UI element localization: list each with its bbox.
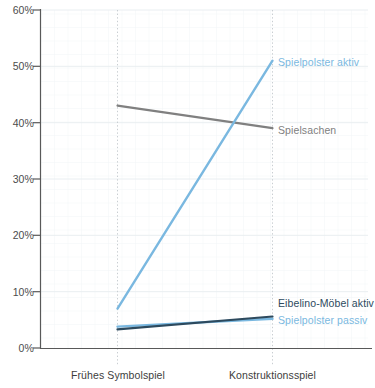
chart-container: 60% 50% 40% 30% 20% 10% 0% Frühes Symbol… <box>0 0 375 388</box>
y-tick-label-30: 30% <box>0 173 34 185</box>
x-tick-label-konstruktionsspiel: Konstruktionsspiel <box>205 369 340 381</box>
y-tick-label-50: 50% <box>0 60 34 72</box>
series-label-spielpolster-passiv: Spielpolster passiv <box>278 314 367 326</box>
series-label-spielsachen: Spielsachen <box>278 124 336 136</box>
y-axis <box>33 9 41 349</box>
y-tick-label-40: 40% <box>0 117 34 129</box>
x-tick-label-fruehes-symbolspiel: Frühes Symbolspiel <box>43 369 193 381</box>
y-tick-label-0: 0% <box>0 342 34 354</box>
series-label-spielpolster-aktiv: Spielpolster aktiv <box>278 56 359 68</box>
series-label-eibelino-moebel-aktiv: Eibelino-Möbel aktiv <box>278 297 374 309</box>
y-tick-label-10: 10% <box>0 286 34 298</box>
y-tick-label-60: 60% <box>0 4 34 16</box>
y-tick-label-20: 20% <box>0 229 34 241</box>
